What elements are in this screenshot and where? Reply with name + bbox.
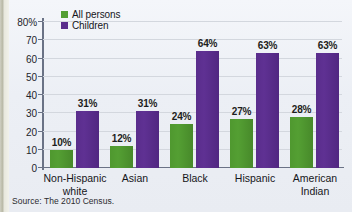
bar-value-label: 10% [52, 137, 71, 148]
y-tick-label: 40 [26, 90, 37, 101]
legend-item-all-persons[interactable]: All persons [61, 9, 120, 20]
y-tick-label: 0 [32, 163, 37, 174]
bar-children[interactable]: 31% [136, 111, 159, 168]
bar-group: 24%64%Black [162, 22, 222, 168]
y-tick-label: 70 [26, 35, 37, 46]
bar-value-label: 31% [78, 98, 97, 109]
bar-value-label: 24% [172, 111, 191, 122]
legend: All persons Children [61, 9, 120, 31]
bar-value-label: 63% [258, 40, 277, 51]
page-edge-highlight [4, 0, 9, 212]
bar-value-label: 12% [112, 133, 131, 144]
legend-label-children: Children [72, 20, 108, 31]
legend-swatch-children [61, 22, 68, 29]
bar-children[interactable]: 63% [316, 53, 339, 168]
y-tick-label: 50 [26, 71, 37, 82]
bar-children[interactable]: 64% [196, 51, 219, 168]
y-tick-label: 20 [26, 126, 37, 137]
bar-all-persons[interactable]: 24% [170, 124, 193, 168]
bar-value-label: 28% [292, 104, 311, 115]
bar-value-label: 27% [232, 106, 251, 117]
bar-group: 12%31%Asian [102, 22, 162, 168]
y-tick-label: 30 [26, 108, 37, 119]
y-tick-label: 80% [17, 17, 37, 28]
bar-children[interactable]: 31% [76, 111, 99, 168]
bar-group: 10%31%Non-Hispanic white [42, 22, 102, 168]
bar-group: 28%63%American Indian [282, 22, 342, 168]
bar-all-persons[interactable]: 10% [50, 150, 73, 168]
y-tick-label: 60 [26, 53, 37, 64]
bar-value-label: 64% [198, 38, 217, 49]
legend-swatch-all-persons [61, 11, 68, 18]
bar-value-label: 63% [318, 40, 337, 51]
x-axis-category-label: American Indian [279, 172, 351, 197]
legend-label-all-persons: All persons [72, 9, 120, 20]
bar-all-persons[interactable]: 12% [110, 146, 133, 168]
chart-figure: 01020304050607080% 10%31%Non-Hispanic wh… [0, 0, 352, 212]
bar-group: 27%63%Hispanic [222, 22, 282, 168]
plot-area: 01020304050607080% 10%31%Non-Hispanic wh… [42, 22, 342, 168]
source-note: Source: The 2010 Census. [12, 196, 114, 206]
bar-children[interactable]: 63% [256, 53, 279, 168]
y-tick-label: 10 [26, 144, 37, 155]
bar-all-persons[interactable]: 27% [230, 119, 253, 168]
legend-item-children[interactable]: Children [61, 20, 120, 31]
bar-value-label: 31% [138, 98, 157, 109]
bar-all-persons[interactable]: 28% [290, 117, 313, 168]
